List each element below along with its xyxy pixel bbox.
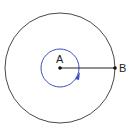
label-a: A — [56, 53, 64, 65]
point-b — [113, 66, 117, 70]
point-a — [58, 66, 62, 70]
rotation-arrow-icon — [75, 72, 80, 80]
label-b: B — [119, 62, 126, 74]
diagram-canvas: A B — [0, 0, 132, 128]
